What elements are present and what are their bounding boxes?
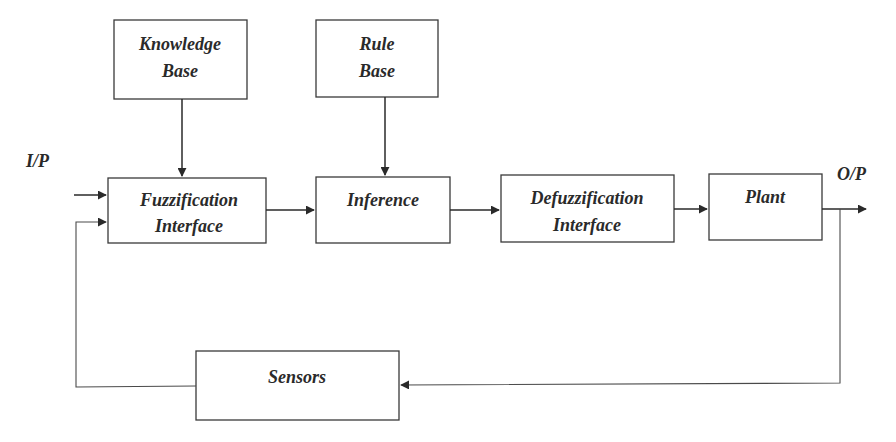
knowledge-base-block: Knowledge Base xyxy=(114,20,247,99)
sensors-label: Sensors xyxy=(268,367,326,387)
rule-base-label-2: Base xyxy=(358,61,395,81)
inference-label: Inference xyxy=(346,190,419,210)
plant-label: Plant xyxy=(744,187,786,207)
sensors-block: Sensors xyxy=(196,351,399,420)
knowledge-base-label-2: Base xyxy=(161,61,198,81)
rule-base-label-1: Rule xyxy=(358,34,394,54)
fuzzification-label-1: Fuzzification xyxy=(139,190,238,210)
feedback-sensors-to-fuzzification xyxy=(76,222,196,387)
fuzzification-label-2: Interface xyxy=(154,216,223,236)
inference-block: Inference xyxy=(316,177,450,243)
input-label: I/P xyxy=(25,151,50,171)
fuzzy-controller-diagram: Knowledge Base Rule Base Fuzzification I… xyxy=(0,0,896,442)
rule-base-block: Rule Base xyxy=(316,20,438,97)
defuzzification-label-2: Interface xyxy=(552,215,621,235)
plant-block: Plant xyxy=(709,174,822,240)
fuzzification-interface-block: Fuzzification Interface xyxy=(108,178,266,243)
defuzzification-interface-block: Defuzzification Interface xyxy=(501,175,674,242)
output-label: O/P xyxy=(837,164,867,184)
defuzzification-label-1: Defuzzification xyxy=(529,188,643,208)
knowledge-base-label-1: Knowledge xyxy=(138,34,221,54)
